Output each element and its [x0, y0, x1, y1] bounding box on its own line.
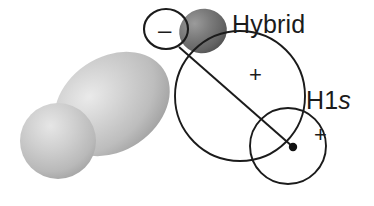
hybrid-small-lobe-shaded: [20, 103, 96, 179]
h1s-label: H1s: [306, 88, 351, 113]
hydrogen-nucleus-dot: [289, 143, 297, 151]
h1s-label-orbital: s: [338, 86, 351, 114]
hybrid-minus-sign: –: [158, 18, 171, 42]
h1s-plus-sign: +: [314, 124, 327, 146]
bond-axis-line: [179, 47, 293, 147]
hybrid-plus-sign: +: [249, 64, 262, 86]
h1s-label-prefix: H1: [306, 86, 338, 114]
hybrid-label: Hybrid: [232, 12, 305, 37]
orbital-diagram-figure: – + + Hybrid H1s: [0, 0, 374, 206]
